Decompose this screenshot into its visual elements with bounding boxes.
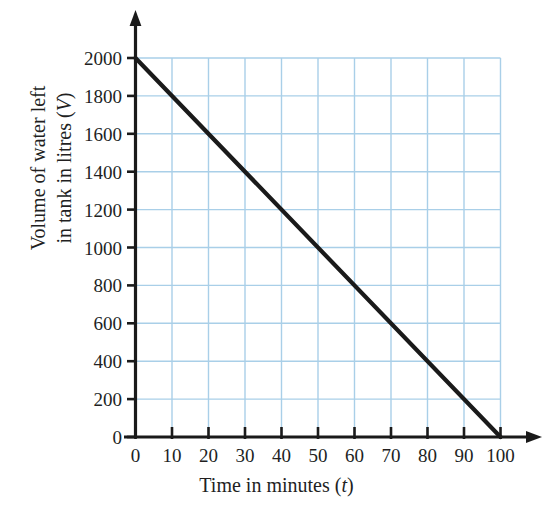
- y-axis-title-line2-text: in tank in litres (: [53, 111, 75, 243]
- xtick-label-70: 70: [382, 446, 401, 465]
- xtick-label-80: 80: [418, 446, 437, 465]
- y-axis-title-line2-close: ): [53, 92, 75, 99]
- x-axis-title-close: ): [347, 474, 354, 496]
- y-axis: [130, 10, 142, 437]
- xtick-label-10: 10: [163, 446, 182, 465]
- ytick-label-200: 200: [12, 390, 122, 409]
- xtick-label-40: 40: [272, 446, 291, 465]
- ytick-label-400: 400: [12, 352, 122, 371]
- x-axis: [124, 431, 542, 443]
- y-axis-variable: V: [53, 99, 75, 111]
- y-axis-title-line2: in tank in litres (V): [51, 92, 77, 243]
- xtick-label-100: 100: [486, 446, 515, 465]
- xtick-label-50: 50: [309, 446, 328, 465]
- y-axis-title-line1: Volume of water left: [25, 86, 51, 251]
- xtick-label-30: 30: [236, 446, 255, 465]
- y-axis-title: Volume of water left in tank in litres (…: [23, 18, 79, 318]
- x-axis-title-text: Time in minutes (: [199, 474, 341, 496]
- xtick-label-20: 20: [199, 446, 218, 465]
- xtick-label-0: 0: [131, 446, 141, 465]
- ytick-label-0: 0: [12, 428, 122, 447]
- xtick-label-90: 90: [455, 446, 474, 465]
- chart-container: 2000 1800 1600 1400 1200 1000 800 600 40…: [0, 0, 553, 519]
- xtick-label-60: 60: [345, 446, 364, 465]
- x-axis-title: Time in minutes (t): [0, 474, 553, 497]
